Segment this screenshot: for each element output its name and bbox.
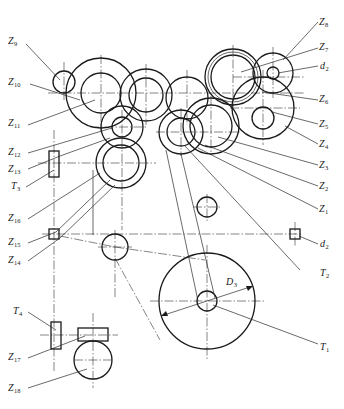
label-d3: D3 [226,277,237,290]
label-t1: T1 [320,342,329,355]
label-z18: Z18 [8,383,21,396]
d3-dimension [161,286,318,344]
belts [93,117,300,301]
label-z12: Z12 [8,147,21,160]
label-z2: Z2 [319,181,328,194]
label-z9: Z9 [8,36,17,49]
label-z7: Z7 [319,42,328,55]
label-t4: T4 [13,306,22,319]
label-z16: Z16 [8,213,21,226]
label-z5: Z5 [319,119,328,132]
label-z6: Z6 [319,94,328,107]
label-z8: Z8 [319,17,328,30]
label-z13: Z13 [8,164,21,177]
label-z3: Z3 [319,160,328,173]
label-z1: Z1 [319,204,328,217]
label-z10: Z10 [8,77,21,90]
diagram-drawing [0,0,344,409]
label-z17: Z17 [8,352,21,365]
gears [53,49,294,379]
label-z15: Z15 [8,237,21,250]
label-d2-right: d2 [320,239,329,252]
label-d2-top: d2 [320,61,329,74]
label-t2: T2 [320,268,329,281]
transmission-diagram: Z9 Z10 Z11 Z12 Z13 T3 Z16 Z15 Z14 T4 Z17… [0,0,344,409]
part-t4 [51,322,61,349]
label-z11: Z11 [8,118,20,131]
label-t3: T3 [11,181,20,194]
leaders-left [26,44,115,388]
label-z4: Z4 [319,139,328,152]
label-z14: Z14 [8,255,21,268]
